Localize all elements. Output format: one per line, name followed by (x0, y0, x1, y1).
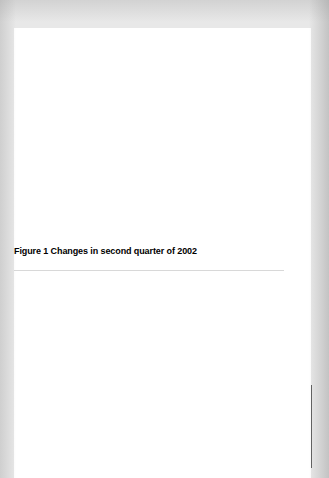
figure-caption: Figure 1 Changes in second quarter of 20… (14, 246, 197, 256)
section-divider (14, 270, 284, 271)
